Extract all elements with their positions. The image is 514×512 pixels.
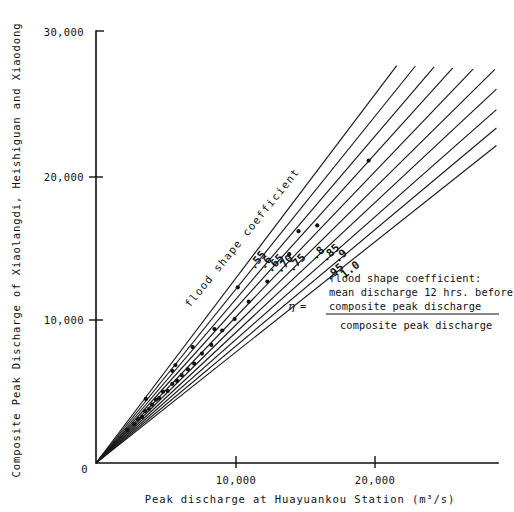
scatter-point <box>170 369 174 373</box>
legend-numerator-line2: composite peak discharge <box>329 300 481 312</box>
y-ticklabel-10000: 10,000 <box>44 314 84 326</box>
scatter-point <box>191 345 195 349</box>
scatter-point <box>192 362 196 366</box>
scatter-point <box>173 363 177 367</box>
scatter-point <box>367 159 371 163</box>
scatter-point <box>236 285 240 289</box>
scatter-point <box>315 223 319 227</box>
scatter-point <box>220 328 224 332</box>
legend-equals-sign: = <box>300 300 306 312</box>
legend-title: flood shape coefficient: <box>329 272 481 284</box>
x-ticklabel-10000: 10,000 <box>216 474 256 486</box>
scatter-point <box>233 317 237 321</box>
y-ticklabels-group: 30,000 20,000 10,000 0 <box>44 26 88 475</box>
scatter-point <box>212 327 216 331</box>
scatter-point <box>136 417 140 421</box>
legend-denominator: composite peak discharge <box>340 319 492 331</box>
chart-canvas: 30,000 20,000 10,000 0 10,000 20,000 Pea… <box>0 0 514 512</box>
scatter-point <box>132 422 136 426</box>
scatter-point <box>147 407 151 411</box>
scatter-point <box>175 379 179 383</box>
scatter-point <box>125 428 129 432</box>
scatter-point <box>140 415 144 419</box>
scatter-point <box>200 351 204 355</box>
scatter-point <box>265 279 269 283</box>
scatter-point <box>150 403 154 407</box>
scatter-point <box>296 229 300 233</box>
x-ticklabel-20000: 20,000 <box>355 474 395 486</box>
scatter-point <box>143 409 147 413</box>
scatter-point <box>166 389 170 393</box>
y-ticklabel-20000: 20,000 <box>44 171 84 183</box>
scatter-point <box>144 397 148 401</box>
chart-figure: 30,000 20,000 10,000 0 10,000 20,000 Pea… <box>0 0 514 512</box>
legend-eta-symbol: η <box>288 299 295 313</box>
y-axis-title: Composite Peak Discharge of Xiaolangdi, … <box>10 23 22 478</box>
scatter-point <box>161 390 165 394</box>
y-ticklabel-30000: 30,000 <box>44 26 84 38</box>
scatter-point <box>247 300 251 304</box>
legend-numerator-line1: mean discharge 12 hrs. before <box>329 286 513 298</box>
y-ticklabel-0: 0 <box>81 463 88 475</box>
scatter-point <box>186 367 190 371</box>
x-ticklabels-group: 10,000 20,000 <box>216 474 395 486</box>
scatter-point <box>180 373 184 377</box>
legend-annotation: flood shape coefficient: mean discharge … <box>288 272 513 331</box>
scatter-point <box>209 343 213 347</box>
x-ticks-group <box>236 456 375 468</box>
x-axis-title: Peak discharge at Huayuankou Station (m³… <box>145 493 456 505</box>
scatter-point <box>170 382 174 386</box>
scatter-point <box>157 396 161 400</box>
